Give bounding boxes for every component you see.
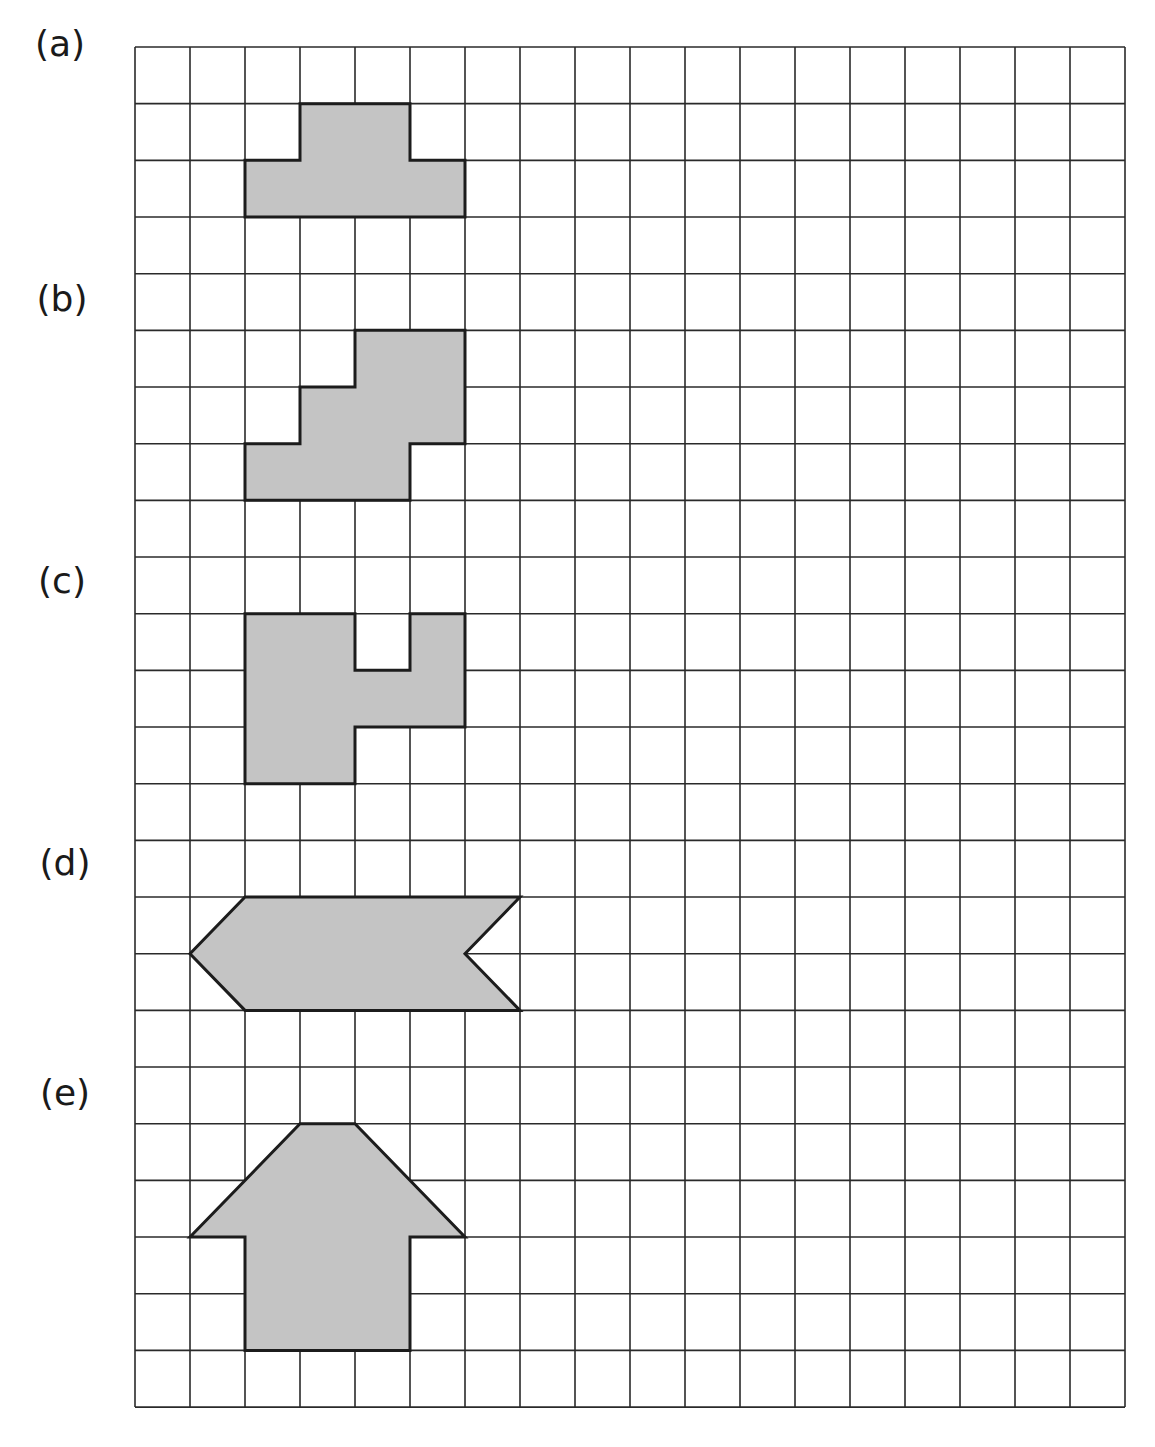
shape-e — [190, 1124, 465, 1351]
label-a: (a) — [35, 23, 85, 64]
label-b: (b) — [37, 278, 88, 319]
shape-a — [245, 104, 465, 217]
shape-b — [245, 330, 465, 500]
label-d: (d) — [40, 842, 91, 883]
grid-figure — [0, 0, 1155, 1447]
label-e: (e) — [40, 1072, 90, 1113]
shape-c — [245, 614, 465, 784]
label-c: (c) — [38, 560, 86, 601]
